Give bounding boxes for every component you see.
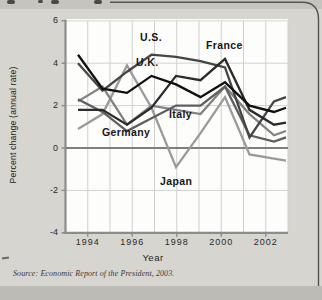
- y-tick-label: 0: [38, 143, 58, 153]
- x-tick-label: 1998: [160, 237, 194, 247]
- x-tick-label: 1996: [115, 237, 149, 247]
- series-label-us: U.S.: [140, 31, 162, 43]
- y-axis-title: Percent change (annual rate): [8, 35, 18, 215]
- y-tick-label: 4: [38, 58, 58, 68]
- x-axis-title: Year: [132, 252, 174, 263]
- textbook-growth-figure: 6420-2-4 19941996199820002002 JapanItaly…: [0, 0, 322, 300]
- series-label-france: France: [206, 39, 243, 51]
- series-label-japan: Japan: [160, 175, 192, 187]
- page-bottom-band: [0, 286, 322, 300]
- series-label-italy: Italy: [169, 108, 192, 120]
- series-label-uk: U.K.: [136, 56, 159, 68]
- x-tick-label: 1994: [71, 237, 105, 247]
- series-label-germany: Germany: [102, 126, 150, 138]
- y-tick-label: -2: [38, 185, 58, 195]
- x-tick-label: 2002: [249, 237, 283, 247]
- x-tick-label: 2000: [204, 237, 238, 247]
- y-tick-label: 6: [38, 15, 58, 25]
- y-tick-label: -4: [38, 227, 58, 237]
- y-tick-label: 2: [38, 100, 58, 110]
- source-line: Source: Economic Report of the President…: [13, 269, 174, 278]
